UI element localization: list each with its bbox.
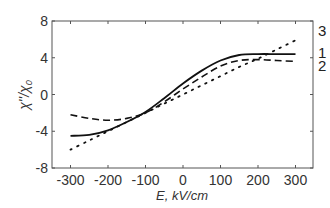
y-axis-title: χ''/χ0 [16, 80, 34, 112]
y-tick-label: -4 [36, 123, 49, 139]
curve-label-2: 2 [318, 57, 326, 74]
x-tick-label: -200 [94, 172, 122, 188]
x-tick-label: -100 [131, 172, 159, 188]
series-1-line [71, 54, 296, 136]
series-3-line [71, 40, 296, 149]
y-axis-title-subscript: 0 [24, 80, 34, 85]
x-axis-ticks: -300-200-1000100200300 [56, 21, 307, 188]
chart: -300-200-1000100200300 -8-4048 3 1 2 E, … [0, 0, 330, 208]
y-tick-label: 0 [40, 87, 48, 103]
series-group [71, 40, 296, 149]
plot-frame [52, 21, 313, 168]
y-tick-label: -8 [36, 160, 49, 176]
y-axis-title-denominator: /χ [16, 85, 32, 98]
curve-label-3: 3 [318, 22, 326, 39]
x-tick-label: 200 [246, 172, 270, 188]
y-tick-label: 4 [40, 50, 48, 66]
series-2-line [71, 60, 296, 121]
x-tick-label: 0 [179, 172, 187, 188]
x-axis-title: E, kV/cm [156, 188, 208, 203]
x-tick-label: 300 [284, 172, 308, 188]
x-tick-label: -300 [56, 172, 84, 188]
y-axis-title-main: χ'' [16, 95, 32, 111]
x-tick-label: 100 [209, 172, 233, 188]
y-tick-label: 8 [40, 13, 48, 29]
svg-text:χ''/χ0: χ''/χ0 [16, 80, 34, 112]
